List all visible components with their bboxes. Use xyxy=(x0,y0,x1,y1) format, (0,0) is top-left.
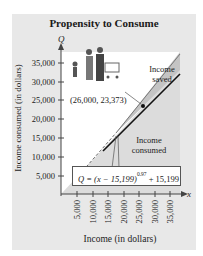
svg-text:30,000: 30,000 xyxy=(32,77,55,87)
y-axis-label: Income consumed (in dollars) xyxy=(13,48,23,188)
svg-text:35,000: 35,000 xyxy=(165,200,175,223)
consumed-line2: consumed xyxy=(124,145,174,155)
svg-text:10,000: 10,000 xyxy=(88,200,98,223)
svg-text:5,000: 5,000 xyxy=(36,171,55,181)
x-axis-label: Income (in dollars) xyxy=(60,234,180,244)
highlight-point xyxy=(141,104,145,108)
svg-text:30,000: 30,000 xyxy=(150,200,160,223)
point-label: (26,000, 23,373) xyxy=(70,95,127,105)
svg-text:x: x xyxy=(186,189,191,199)
svg-text:15,000: 15,000 xyxy=(103,200,113,223)
svg-text:10,000: 10,000 xyxy=(32,152,55,162)
equation-exponent: 0.97 xyxy=(137,171,147,177)
y-tick-labels: 35,00030,000 25,00020,000 15,00010,000 5… xyxy=(32,58,55,181)
income-consumed-label: Income consumed xyxy=(124,135,174,155)
equation-base: Q = (x − 15,199) xyxy=(78,174,137,184)
saved-line2: saved xyxy=(142,74,182,84)
svg-text:25,000: 25,000 xyxy=(134,200,144,223)
chart-plot: 35,00030,000 25,00020,000 15,00010,000 5… xyxy=(0,0,203,256)
svg-text:5,000: 5,000 xyxy=(72,200,82,219)
svg-text:15,000: 15,000 xyxy=(32,133,55,143)
equation-box: Q = (x − 15,199)0.97 + 15,199 xyxy=(72,166,181,186)
equation-constant: + 15,199 xyxy=(147,174,179,184)
x-tick-labels: 5,000 10,000 15,000 20,000 25,000 30,000… xyxy=(72,200,175,223)
svg-text:Q: Q xyxy=(58,34,65,44)
consumed-line1: Income xyxy=(124,135,174,145)
svg-text:20,000: 20,000 xyxy=(119,200,129,223)
saved-line1: Income xyxy=(142,64,182,74)
income-saved-label: Income saved xyxy=(142,64,182,84)
svg-text:20,000: 20,000 xyxy=(32,114,55,124)
svg-text:25,000: 25,000 xyxy=(32,95,55,105)
svg-text:35,000: 35,000 xyxy=(32,58,55,68)
